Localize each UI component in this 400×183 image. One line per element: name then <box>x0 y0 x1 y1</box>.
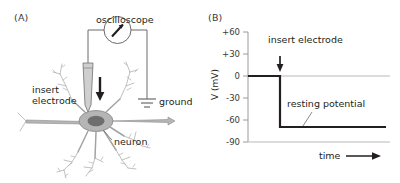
neuron-label: neuron <box>114 136 147 147</box>
panel-a: (A) <box>0 0 200 183</box>
figure-container: (A) <box>0 0 400 183</box>
neuron-soma-icon <box>26 99 175 158</box>
time-axis-arrow-icon <box>346 152 381 159</box>
insert-electrode-label-line2: electrode <box>32 95 77 106</box>
ground-label: ground <box>159 96 193 107</box>
y-tick-label-neg90: -90 <box>208 137 240 147</box>
insert-electrode-annotation: insert electrode <box>268 34 343 45</box>
y-tick-label-60: +60 <box>208 27 240 37</box>
neuron-leader-line <box>103 130 112 140</box>
panel-b: (B) <box>200 0 400 183</box>
resting-potential-annotation: resting potential <box>287 98 365 109</box>
y-tick-label-neg60: -60 <box>208 115 240 125</box>
insert-electrode-arrow-icon <box>277 56 284 72</box>
insert-electrode-label-line1: insert <box>32 84 59 95</box>
time-axis-label: time <box>319 150 340 161</box>
y-axis-ticks <box>243 32 248 142</box>
y-tick-label-30: +30 <box>208 49 240 59</box>
electrical-ground-icon <box>138 99 156 107</box>
oscilloscope-label: oscilloscope <box>96 14 154 25</box>
micropipette-electrode-icon <box>83 63 93 112</box>
y-axis-title: V (mV) <box>210 69 220 100</box>
panel-a-diagram <box>0 0 200 183</box>
downward-insertion-arrow-icon <box>96 77 105 101</box>
resting-potential-leader-line <box>303 112 312 126</box>
